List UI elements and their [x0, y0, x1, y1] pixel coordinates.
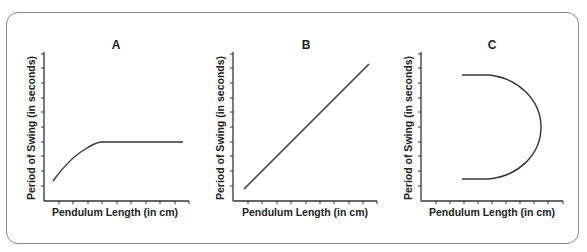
- panel-a: A Pendulum Length (in cm) Period of Swin…: [25, 38, 189, 218]
- panel-b-title: B: [302, 38, 311, 52]
- panel-c-title: C: [488, 38, 497, 52]
- panel-c: C Pendulum Length (in cm) Period of Swin…: [402, 38, 563, 218]
- figure-svg: A Pendulum Length (in cm) Period of Swin…: [0, 0, 587, 252]
- panel-b-y-label: Period of Swing (in seconds): [214, 56, 226, 200]
- panel-c-x-label: Pendulum Length (in cm): [429, 206, 555, 218]
- panel-a-y-label: Period of Swing (in seconds): [25, 56, 37, 200]
- panel-b-x-label: Pendulum Length (in cm): [242, 206, 368, 218]
- panel-a-title: A: [112, 38, 121, 52]
- panel-c-curve: [462, 75, 541, 179]
- panel-b-line: [244, 64, 369, 189]
- panel-a-x-label: Pendulum Length (in cm): [52, 206, 178, 218]
- panel-c-y-label: Period of Swing (in seconds): [402, 56, 414, 200]
- panel-b: B Pendulum Length (in cm) Period of Swin…: [214, 38, 377, 218]
- panel-a-curve: [53, 142, 183, 181]
